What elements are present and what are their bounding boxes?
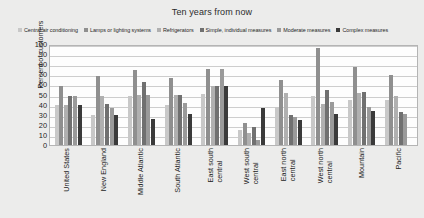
bar[interactable] (403, 114, 407, 145)
bar[interactable] (55, 105, 59, 145)
legend-swatch-icon (84, 28, 88, 32)
bar[interactable] (289, 115, 293, 145)
legend-item[interactable]: Moderate measures (277, 27, 330, 33)
bar[interactable] (224, 86, 228, 145)
x-axis-tick-label: Middle Atlantic (137, 148, 146, 195)
bar[interactable] (293, 117, 297, 145)
legend-item[interactable]: Central air conditioning (18, 27, 78, 33)
y-axis-tick-label: 50 (39, 92, 47, 100)
legend-item[interactable]: Refrigerators (157, 27, 194, 33)
bar[interactable] (367, 107, 371, 145)
bar[interactable] (334, 114, 338, 145)
bar[interactable] (348, 100, 352, 145)
x-axis-tick-label: East south central (207, 148, 224, 182)
y-axis-tick-label: 70 (39, 71, 47, 79)
bar[interactable] (330, 102, 334, 145)
legend-item[interactable]: Lamps or lighting systems (84, 27, 151, 33)
bar[interactable] (151, 119, 155, 145)
x-axis-tick-labels: United StatesNew EnglandMiddle AtlanticS… (49, 148, 418, 216)
bar[interactable] (165, 105, 169, 145)
bar-group (234, 45, 271, 145)
bar[interactable] (261, 108, 265, 145)
legend-item[interactable]: Simple, individual measures (200, 27, 272, 33)
bar-group (270, 45, 307, 145)
bar-group (197, 45, 234, 145)
bar[interactable] (385, 100, 389, 145)
bar[interactable] (311, 96, 315, 146)
bar[interactable] (78, 105, 82, 145)
bar[interactable] (128, 96, 132, 146)
bar[interactable] (321, 104, 325, 145)
bar[interactable] (256, 140, 260, 145)
x-axis-tick-label: New England (100, 148, 109, 191)
y-axis-tick-label: 90 (39, 51, 47, 59)
bar[interactable] (362, 92, 366, 145)
x-axis-tick-cell: West south central (234, 148, 271, 216)
bar[interactable] (110, 108, 114, 145)
bar[interactable] (325, 90, 329, 145)
bar[interactable] (394, 96, 398, 146)
bar-group (344, 45, 381, 145)
bar[interactable] (243, 123, 247, 145)
bar[interactable] (371, 111, 375, 145)
legend-item[interactable]: Complex measures (336, 27, 388, 33)
x-axis-tick-cell: East north central (270, 148, 307, 216)
bar[interactable] (220, 69, 224, 145)
bar-group (50, 45, 87, 145)
bar[interactable] (174, 95, 178, 145)
x-axis-tick-cell: East south central (197, 148, 234, 216)
bar[interactable] (59, 86, 63, 145)
x-axis-tick-label: West north central (317, 148, 334, 183)
bar[interactable] (188, 114, 192, 145)
x-axis-tick-cell: Pacific (381, 148, 418, 216)
legend-item-label: Moderate measures (283, 27, 330, 33)
bar[interactable] (298, 120, 302, 145)
x-axis-tick-label: Pacific (395, 148, 404, 170)
bar[interactable] (68, 96, 72, 146)
bar[interactable] (399, 112, 403, 145)
bar[interactable] (64, 105, 68, 145)
bar[interactable] (357, 93, 361, 145)
bar[interactable] (247, 133, 251, 145)
bar[interactable] (252, 127, 256, 145)
x-axis-tick-label: East north central (280, 148, 297, 181)
y-axis-tick-label: 10 (39, 132, 47, 140)
bar[interactable] (183, 103, 187, 145)
bar[interactable] (133, 70, 137, 145)
y-axis-tick-label: 60 (39, 81, 47, 89)
bar[interactable] (201, 94, 205, 145)
bar[interactable] (73, 96, 77, 146)
legend-item-label: Simple, individual measures (206, 27, 272, 33)
bar[interactable] (316, 48, 320, 145)
bar[interactable] (353, 67, 357, 145)
bar[interactable] (389, 75, 393, 145)
bar[interactable] (169, 78, 173, 145)
bar-group (123, 45, 160, 145)
bar[interactable] (146, 95, 150, 145)
legend-swatch-icon (200, 28, 204, 32)
bar[interactable] (215, 86, 219, 145)
bar[interactable] (91, 115, 95, 145)
bar[interactable] (96, 76, 100, 145)
chart-title: Ten years from now (0, 7, 424, 17)
bar[interactable] (275, 107, 279, 145)
bar[interactable] (105, 104, 109, 145)
x-axis-tick-cell: West north central (307, 148, 344, 216)
bar[interactable] (206, 69, 210, 145)
bar[interactable] (142, 82, 146, 145)
bar-group (380, 45, 417, 145)
legend-item-label: Central air conditioning (24, 27, 78, 33)
legend-swatch-icon (277, 28, 281, 32)
bar[interactable] (137, 95, 141, 145)
bar[interactable] (279, 80, 283, 145)
bar-chart: Ten years from now Central air condition… (0, 0, 424, 218)
legend-swatch-icon (336, 28, 340, 32)
legend-swatch-icon (157, 28, 161, 32)
bar[interactable] (114, 115, 118, 145)
x-axis-tick-cell: United States (49, 148, 86, 216)
bar[interactable] (178, 95, 182, 145)
bar[interactable] (284, 93, 288, 145)
bar[interactable] (100, 96, 104, 146)
bar[interactable] (238, 130, 242, 145)
bar[interactable] (211, 86, 215, 145)
